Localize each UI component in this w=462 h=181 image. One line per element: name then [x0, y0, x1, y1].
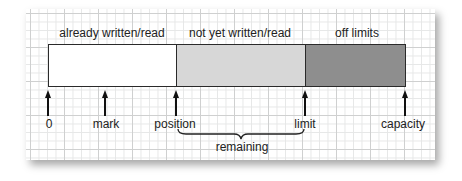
segment-not-yet-written — [176, 44, 307, 87]
region-label-already-written: already written/read — [59, 26, 164, 40]
marker-label-zero: 0 — [46, 117, 53, 131]
region-label-off-limits: off limits — [335, 26, 379, 40]
marker-label-capacity: capacity — [381, 117, 425, 131]
brace-label-remaining: remaining — [216, 140, 269, 154]
segment-already-written — [48, 44, 177, 87]
region-label-not-yet-written: not yet written/read — [189, 26, 291, 40]
marker-label-mark: mark — [93, 117, 120, 131]
segment-off-limits — [305, 44, 406, 87]
